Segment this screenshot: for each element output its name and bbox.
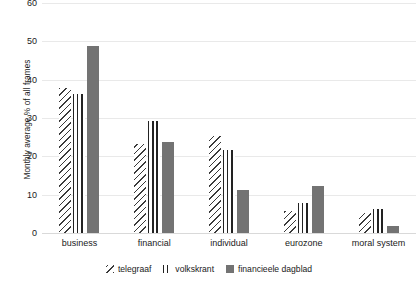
bar-chart: Monthly average % of all frames 01020304… <box>0 0 418 287</box>
bar-group <box>266 4 341 234</box>
legend-swatch-solid-fill-icon <box>226 265 234 273</box>
bar[interactable] <box>284 211 296 234</box>
x-axis-tick-label: business <box>42 238 117 248</box>
y-axis-tick-label: 50 <box>27 36 37 46</box>
bar-groups <box>42 4 416 234</box>
y-axis-tick-label: 20 <box>27 151 37 161</box>
legend-label: telegraaf <box>118 264 151 274</box>
bar[interactable] <box>148 121 160 234</box>
x-axis-tick-label: eurozone <box>266 238 341 248</box>
legend-item[interactable]: financieele dagblad <box>226 264 312 274</box>
y-axis-tick-label: 10 <box>27 190 37 200</box>
y-axis-tick-label: 30 <box>27 113 37 123</box>
y-axis-tick-label: 60 <box>27 0 37 8</box>
bar-group <box>42 4 117 234</box>
bar[interactable] <box>162 142 174 234</box>
bar[interactable] <box>298 203 310 234</box>
bar[interactable] <box>59 88 71 234</box>
bar[interactable] <box>209 136 221 234</box>
bar-group <box>192 4 267 234</box>
bar[interactable] <box>312 186 324 234</box>
legend-item[interactable]: telegraaf <box>106 264 151 274</box>
legend-label: financieele dagblad <box>238 264 312 274</box>
y-axis-tick-label: 0 <box>32 228 37 238</box>
x-axis-tick-label: individual <box>192 238 267 248</box>
x-axis-tick-label: financial <box>117 238 192 248</box>
bar[interactable] <box>237 190 249 234</box>
bar[interactable] <box>223 150 235 234</box>
legend-label: volkskrant <box>175 264 214 274</box>
bar[interactable] <box>373 209 385 234</box>
x-axis-tick-labels: businessfinancialindividualeurozonemoral… <box>42 238 416 248</box>
bar[interactable] <box>73 94 85 234</box>
bar-group <box>341 4 416 234</box>
bar[interactable] <box>134 144 146 234</box>
plot-area: 0102030405060 <box>42 4 416 234</box>
axis-baseline <box>42 233 416 234</box>
bar[interactable] <box>87 46 99 234</box>
chart-legend: telegraafvolkskrantfinancieele dagblad <box>0 264 418 274</box>
bar[interactable] <box>359 213 371 234</box>
x-axis-tick-label: moral system <box>341 238 416 248</box>
bar-group <box>117 4 192 234</box>
legend-swatch-diagonal-hatch-icon <box>106 265 114 273</box>
legend-swatch-vertical-lines-icon <box>163 265 171 273</box>
legend-item[interactable]: volkskrant <box>163 264 214 274</box>
y-axis-tick-label: 40 <box>27 75 37 85</box>
